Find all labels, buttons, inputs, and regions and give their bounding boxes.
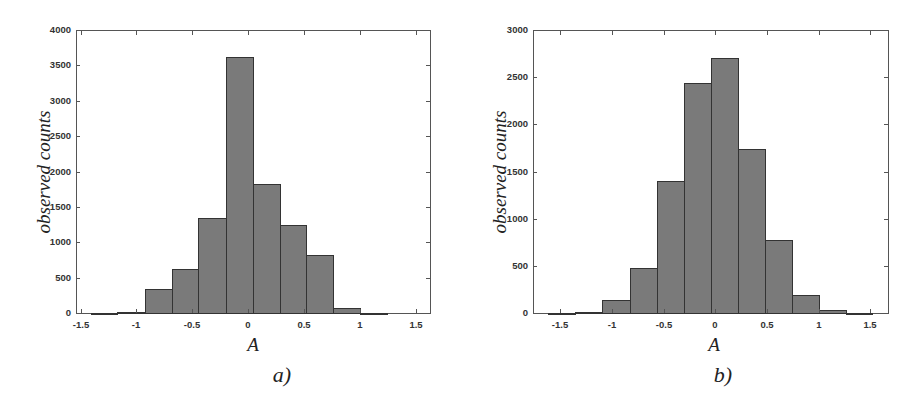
histogram-bar xyxy=(711,58,739,314)
x-tick-mark xyxy=(81,309,82,313)
x-tick-label: 0 xyxy=(700,320,730,330)
y-tick-mark-right xyxy=(426,172,430,173)
histogram-bar xyxy=(172,269,199,314)
y-tick-mark-right xyxy=(884,124,888,125)
y-tick-mark-right xyxy=(426,136,430,137)
histogram-bar xyxy=(657,181,685,314)
histogram-bar xyxy=(819,310,847,314)
x-tick-mark xyxy=(870,309,871,313)
y-tick-mark-right xyxy=(426,65,430,66)
y-tick-label: 3000 xyxy=(488,25,528,35)
histogram-bar xyxy=(280,225,307,314)
x-tick-mark xyxy=(360,309,361,313)
histogram-bar xyxy=(684,83,712,314)
y-tick-label: 4000 xyxy=(31,25,71,35)
histogram-bar xyxy=(602,300,631,314)
x-tick-mark-top xyxy=(664,31,665,35)
y-tick-mark-right xyxy=(426,207,430,208)
histogram-bar xyxy=(91,313,118,315)
histogram-bar xyxy=(145,289,173,314)
x-tick-mark xyxy=(819,309,820,313)
histogram-bar xyxy=(333,308,361,314)
y-tick-label: 0 xyxy=(488,308,528,318)
x-tick-mark-top xyxy=(819,31,820,35)
x-tick-mark xyxy=(767,309,768,313)
y-tick-mark xyxy=(533,313,537,314)
x-tick-mark xyxy=(612,309,613,313)
x-tick-label: 0 xyxy=(233,320,263,330)
y-tick-label: 0 xyxy=(31,308,71,318)
x-tick-mark xyxy=(715,309,716,313)
x-tick-mark xyxy=(416,309,417,313)
x-tick-mark xyxy=(664,309,665,313)
y-tick-mark-right xyxy=(426,278,430,279)
x-tick-mark-top xyxy=(612,31,613,35)
y-tick-mark-right xyxy=(884,172,888,173)
y-tick-mark-right xyxy=(884,30,888,31)
x-tick-label: -0.5 xyxy=(649,320,679,330)
histogram-bar xyxy=(117,312,146,314)
y-axis-label: observed counts xyxy=(33,72,55,272)
y-tick-mark-right xyxy=(884,77,888,78)
x-tick-label: -1.5 xyxy=(545,320,575,330)
x-tick-label: -1 xyxy=(121,320,151,330)
x-tick-label: 0.5 xyxy=(289,320,319,330)
x-tick-label: 0.5 xyxy=(752,320,782,330)
histogram-bar xyxy=(226,57,254,314)
x-tick-mark-top xyxy=(248,31,249,35)
y-axis-label: observed counts xyxy=(489,72,511,272)
y-tick-mark-right xyxy=(426,313,430,314)
y-tick-mark-right xyxy=(426,242,430,243)
y-tick-mark-right xyxy=(426,30,430,31)
x-tick-mark xyxy=(560,309,561,313)
histogram-bar xyxy=(360,313,388,315)
histogram-bar xyxy=(630,268,658,314)
histogram-bar xyxy=(198,218,227,314)
x-tick-mark-top xyxy=(360,31,361,35)
x-tick-mark-top xyxy=(192,31,193,35)
y-tick-mark xyxy=(533,77,537,78)
y-tick-label: 500 xyxy=(31,273,71,283)
x-tick-mark xyxy=(136,309,137,313)
y-tick-mark xyxy=(76,313,80,314)
y-tick-mark-right xyxy=(884,266,888,267)
y-tick-label: 3500 xyxy=(31,60,71,70)
x-tick-label: -0.5 xyxy=(177,320,207,330)
histogram-bar xyxy=(548,313,576,315)
y-tick-mark xyxy=(533,172,537,173)
y-tick-mark xyxy=(76,172,80,173)
y-tick-mark xyxy=(533,30,537,31)
y-tick-mark xyxy=(76,136,80,137)
panel-caption: a) xyxy=(262,362,302,388)
histogram-bar xyxy=(253,184,281,314)
histogram-bar xyxy=(792,295,820,314)
y-tick-mark xyxy=(76,65,80,66)
y-tick-mark xyxy=(76,278,80,279)
histogram-bar xyxy=(846,313,873,315)
y-tick-mark xyxy=(76,242,80,243)
y-tick-mark-right xyxy=(884,219,888,220)
x-tick-mark-top xyxy=(870,31,871,35)
x-axis-label: A xyxy=(238,334,268,356)
y-tick-mark xyxy=(76,207,80,208)
x-tick-label: -1 xyxy=(597,320,627,330)
y-tick-mark xyxy=(533,219,537,220)
x-tick-mark xyxy=(304,309,305,313)
y-tick-mark xyxy=(76,101,80,102)
y-tick-mark xyxy=(76,30,80,31)
x-tick-label: 1.5 xyxy=(401,320,431,330)
panel-caption: b) xyxy=(703,362,743,388)
x-tick-label: 1.5 xyxy=(855,320,885,330)
x-tick-mark-top xyxy=(136,31,137,35)
x-tick-label: 1 xyxy=(804,320,834,330)
x-tick-mark-top xyxy=(81,31,82,35)
histogram-bar xyxy=(765,240,793,314)
y-tick-mark xyxy=(533,124,537,125)
histogram-bar xyxy=(306,255,334,314)
x-tick-mark xyxy=(192,309,193,313)
x-axis-label: A xyxy=(699,334,729,356)
x-tick-mark-top xyxy=(416,31,417,35)
histogram-bar xyxy=(575,312,603,314)
x-tick-mark-top xyxy=(560,31,561,35)
x-tick-label: 1 xyxy=(345,320,375,330)
